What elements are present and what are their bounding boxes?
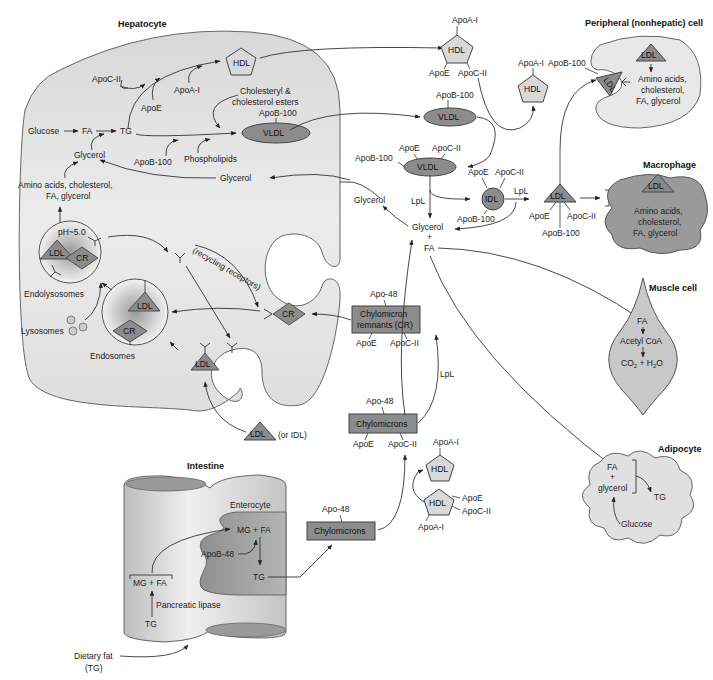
svg-text:VLDL: VLDL	[417, 162, 439, 172]
vldl-particle-hepatocyte: VLDL	[242, 123, 310, 143]
idl-apoe: ApoE	[468, 167, 489, 177]
cholesteryl-label-1: Cholesteryl &	[240, 86, 291, 96]
lpl-label-idl: LpL	[514, 186, 528, 196]
endosomes-label: Endosomes	[90, 351, 135, 361]
glycerol-free-label: Glycerol	[354, 195, 385, 205]
ldl-apoe: ApoE	[529, 211, 550, 221]
hdl-top-apoc2: ApoC-II	[458, 68, 487, 78]
ldl-particle-circulation: LDL	[544, 184, 576, 202]
vldl-mid-apoe: ApoE	[399, 143, 420, 153]
apoa1-label: ApoA-I	[174, 85, 200, 95]
adipocyte-tg: TG	[654, 492, 666, 502]
apoe-label: ApoE	[141, 103, 162, 113]
adipocyte-plus: +	[610, 472, 615, 482]
hdl-low-a-apoa1: ApoA-I	[433, 437, 459, 447]
svg-text:Chylomicron: Chylomicron	[360, 309, 408, 319]
vldl-top-apob100: ApoB-100	[436, 90, 474, 100]
endolysosomes-label: Endolysosomes	[24, 289, 84, 299]
fa-label: FA	[82, 126, 93, 136]
lumen-mgfa: MG + FA	[133, 578, 167, 588]
svg-text:remnants (CR): remnants (CR)	[357, 320, 413, 330]
dietary-fat-label: Dietary fat	[74, 651, 113, 661]
adipocyte: Adipocyte FA + glycerol TG Glucose	[583, 444, 702, 543]
hdl-low-b-apoc2: ApoC-II	[462, 506, 491, 516]
adipocyte-title: Adipocyte	[658, 444, 702, 454]
tg-label: TG	[120, 126, 132, 136]
chylo-apo48: Apo-48	[366, 396, 394, 406]
adipocyte-membrane	[583, 451, 694, 543]
plus-sign: +	[427, 232, 432, 242]
lipoprotein-metabolism-diagram: Hepatocyte HDL ApoC-II ApoE ApoA-I Chole…	[0, 0, 713, 680]
apob100-vldl-label: ApoB-100	[259, 108, 297, 118]
svg-text:IDL: IDL	[485, 194, 499, 204]
svg-text:Chylomicrons: Chylomicrons	[356, 419, 408, 429]
lumen-tg: TG	[145, 619, 157, 629]
peripheral-line-3: FA, glycerol	[636, 96, 681, 106]
hdl-particle-mid: HDL	[518, 75, 548, 102]
cr-apoc2: ApoC-II	[390, 338, 419, 348]
muscle-acetyl-coa: Acetyl CoA	[620, 336, 662, 346]
apob48-label: ApoB-48	[201, 549, 234, 559]
adipocyte-fa: FA	[607, 462, 618, 472]
svg-text:HDL: HDL	[429, 498, 446, 508]
ldl-apoc2: ApoC-II	[567, 211, 596, 221]
idl-particle: IDL	[482, 188, 504, 210]
muscle-membrane	[609, 278, 678, 415]
vldl-mid-apoc2: ApoC-II	[432, 143, 461, 153]
muscle-title: Muscle cell	[649, 283, 697, 293]
muscle-cell: Muscle cell FA Acetyl CoA CO2 + H2O	[609, 278, 697, 415]
muscle-fa: FA	[637, 316, 648, 326]
cr-apoe: ApoE	[356, 338, 377, 348]
peripheral-cell: Peripheral (nonhepatic) cell ApoB-100 LD…	[548, 18, 703, 128]
vldl-particle-top: VLDL	[424, 108, 476, 126]
peripheral-line-2: cholesterol,	[641, 85, 684, 95]
chylo-apoc2: ApoC-II	[388, 439, 417, 449]
cholesteryl-label-2: cholesterol esters	[232, 97, 299, 107]
hepatocyte-title: Hepatocyte	[118, 19, 167, 29]
peripheral-line-1: Amino acids,	[638, 74, 687, 84]
chylomicrons-box: Chylomicrons	[349, 414, 417, 433]
hdl-top-apoe: ApoE	[429, 68, 450, 78]
vldl-mid-apob100: ApoB-100	[355, 153, 393, 163]
amino-acids-label-1: Amino acids, cholesterol,	[18, 180, 113, 190]
endolysosome: pH~5.0 LDL CR	[39, 221, 101, 283]
hdl-top-apoa1: ApoA-I	[452, 15, 478, 25]
svg-text:CR: CR	[123, 326, 135, 336]
peripheral-apob100: ApoB-100	[548, 58, 586, 68]
lpl-label-chylo: LpL	[440, 369, 454, 379]
svg-text:HDL: HDL	[431, 464, 448, 474]
hdl-particle-top: HDL	[441, 35, 473, 63]
svg-text:HDL: HDL	[233, 58, 250, 68]
idl-apoc2: ApoC-II	[495, 167, 524, 177]
apob100-lower-label: ApoB-100	[134, 157, 172, 167]
svg-text:LDL: LDL	[648, 181, 664, 191]
enterocyte-tg: TG	[253, 572, 265, 582]
svg-text:VLDL: VLDL	[438, 112, 460, 122]
enterocyte-label: Enterocyte	[230, 500, 271, 510]
lysosomes-label: Lysosomes	[21, 326, 64, 336]
apoc2-label: ApoC-II	[92, 74, 121, 84]
svg-text:HDL: HDL	[524, 84, 541, 94]
pancreatic-lipase-label: Pancreatic lipase	[156, 600, 221, 610]
chylomicrons-new-box: Chylomicrons	[307, 522, 375, 540]
svg-text:LDL: LDL	[137, 301, 153, 311]
svg-text:HDL: HDL	[448, 45, 465, 55]
intestine-title: Intestine	[187, 461, 224, 471]
svg-text:LDL: LDL	[550, 191, 566, 201]
svg-text:LDL: LDL	[49, 248, 65, 258]
macrophage-line-1: Amino acids,	[634, 206, 683, 216]
lpl-label-vldl: LpL	[411, 196, 425, 206]
hdl-low-b-apoa1: ApoA-I	[418, 522, 444, 532]
macrophage-line-2: cholesterol,	[638, 217, 681, 227]
fa-mid-label: FA	[424, 243, 435, 253]
svg-text:Chylomicrons: Chylomicrons	[314, 526, 366, 536]
enterocyte-mgfa: MG + FA	[237, 525, 271, 535]
endosome: LDL CR	[102, 279, 168, 345]
chylomicron-remnants-box: Chylomicron remnants (CR)	[352, 306, 420, 333]
phospholipids-label: Phospholipids	[184, 154, 237, 164]
svg-text:pH~5.0: pH~5.0	[58, 227, 86, 237]
cr-apo48: Apo-48	[370, 289, 398, 299]
macrophage-line-3: FA, glycerol	[633, 228, 678, 238]
glycerol-label-right: Glycerol	[220, 173, 251, 183]
hdl-particle-low-a: HDL	[426, 455, 454, 481]
